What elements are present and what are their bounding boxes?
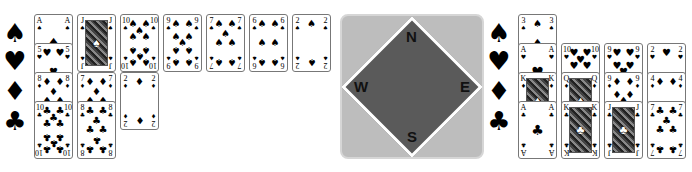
hearts-suit-icon: ♥ xyxy=(0,48,30,74)
card-rank-index: 9♠ xyxy=(193,17,200,31)
spades-suit-icon: ♠ xyxy=(0,20,30,46)
card-8-of-clubs[interactable]: 8♣8♣8♣8♣♣♣♣♣♣♣♣♣ xyxy=(77,101,116,159)
card-rank-index: A♣ xyxy=(548,104,555,118)
spades-suit-icon: ♠ xyxy=(484,20,514,46)
card-rank-index: 2♦ xyxy=(150,75,157,89)
face-card-portrait: ♣ xyxy=(569,107,592,153)
card-rank-index: A♠ xyxy=(64,17,71,31)
card-rank-index: 5♥ xyxy=(64,46,71,60)
card-7-of-spades[interactable]: 7♠7♠7♠7♠♠♠♠♠♠♠♠ xyxy=(206,14,245,72)
card-rank-index: 9♠ xyxy=(193,55,200,69)
card-rank-index: 8♦ xyxy=(64,75,71,89)
card-rank-index: 7♦ xyxy=(107,75,114,89)
card-rank-index: 8♣ xyxy=(107,104,114,118)
card-rank-index: 10♠ xyxy=(150,55,157,69)
card-rank-index: J♣ xyxy=(634,142,641,156)
clubs-pips-icon: ♣♣♣♣♣♣♣ xyxy=(655,105,678,155)
clubs-pips-icon: ♣♣♣♣♣♣♣♣ xyxy=(85,105,108,155)
card-rank-index: 10♣ xyxy=(64,104,71,118)
spades-pips-icon: ♠♠♠♠♠♠♠♠♠♠ xyxy=(128,18,151,68)
compass-north: N xyxy=(406,28,417,45)
face-card-portrait: ♠ xyxy=(85,20,108,66)
card-rank-index: K♦ xyxy=(548,75,555,89)
card-rank-index: 7♣ xyxy=(677,142,684,156)
card-a-of-clubs[interactable]: A♣A♣A♣A♣♣ xyxy=(518,101,557,159)
card-rank-index: 10♠ xyxy=(150,17,157,31)
card-6-of-spades[interactable]: 6♠6♠6♠6♠♠♠♠♠♠♠ xyxy=(249,14,288,72)
card-rank-index: 2♦ xyxy=(150,113,157,127)
card-rank-index: 7♣ xyxy=(677,104,684,118)
card-rank-index: 6♠ xyxy=(279,55,286,69)
compass-west: W xyxy=(354,78,368,95)
card-rank-index: 2♠ xyxy=(322,17,329,31)
spades-pips-icon: ♠♠♠♠♠♠ xyxy=(257,18,280,68)
card-rank-index: 9♥ xyxy=(634,46,641,60)
card-rank-index: K♣ xyxy=(591,104,598,118)
face-card-portrait: ♣ xyxy=(612,107,635,153)
spades-pips-icon: ♠♠ xyxy=(300,18,323,68)
diamonds-pips-icon: ♦♦ xyxy=(128,76,151,126)
compass-table: N W E S xyxy=(340,14,484,159)
card-7-of-clubs[interactable]: 7♣7♣7♣7♣♣♣♣♣♣♣♣ xyxy=(647,101,686,159)
card-rank-index: 6♠ xyxy=(279,17,286,31)
card-rank-index: A♣ xyxy=(548,142,555,156)
card-rank-index: J♣ xyxy=(634,104,641,118)
card-rank-index: 9♦ xyxy=(634,75,641,89)
card-rank-index: 2♥ xyxy=(677,46,684,60)
diamonds-suit-icon: ♦ xyxy=(484,78,514,104)
clubs-pips-icon: ♣♣♣♣♣♣♣♣♣♣ xyxy=(42,105,65,155)
diamonds-suit-icon: ♦ xyxy=(0,78,30,104)
hearts-suit-icon: ♥ xyxy=(484,48,514,74)
card-rank-index: 7♠ xyxy=(236,17,243,31)
spades-pips-icon: ♠♠♠♠♠♠♠♠♠ xyxy=(171,18,194,68)
clubs-suit-icon: ♣ xyxy=(0,108,30,134)
card-rank-index: K♣ xyxy=(591,142,598,156)
card-j-of-spades[interactable]: J♠J♠J♠J♠♠ xyxy=(77,14,116,72)
card-rank-index: 2♠ xyxy=(322,55,329,69)
card-rank-index: 7♠ xyxy=(236,55,243,69)
compass-east: E xyxy=(460,78,470,95)
card-rank-index: 10♣ xyxy=(64,142,71,156)
card-10-of-clubs[interactable]: 10♣10♣10♣10♣♣♣♣♣♣♣♣♣♣♣ xyxy=(34,101,73,159)
clubs-pips-icon: ♣ xyxy=(526,105,549,155)
card-rank-index: 3♠ xyxy=(548,17,555,31)
card-rank-index: Q♦ xyxy=(591,75,598,89)
card-2-of-spades[interactable]: 2♠2♠2♠2♠♠♠ xyxy=(292,14,331,72)
card-rank-index: 4♦ xyxy=(677,75,684,89)
card-9-of-spades[interactable]: 9♠9♠9♠9♠♠♠♠♠♠♠♠♠♠ xyxy=(163,14,202,72)
spades-pips-icon: ♠♠♠♠♠♠♠ xyxy=(214,18,237,68)
card-rank-index: 8♣ xyxy=(107,142,114,156)
card-rank-index: J♠ xyxy=(107,17,114,31)
card-10-of-spades[interactable]: 10♠10♠10♠10♠♠♠♠♠♠♠♠♠♠♠ xyxy=(120,14,159,72)
card-2-of-diamonds[interactable]: 2♦2♦2♦2♦♦♦ xyxy=(120,72,159,130)
card-rank-index: A♥ xyxy=(548,46,555,60)
compass-south: S xyxy=(407,128,417,145)
card-rank-index: J♠ xyxy=(107,55,114,69)
clubs-suit-icon: ♣ xyxy=(484,108,514,134)
card-rank-index: 10♥ xyxy=(591,46,598,60)
card-j-of-clubs[interactable]: J♣J♣J♣J♣♣ xyxy=(604,101,643,159)
card-k-of-clubs[interactable]: K♣K♣K♣K♣♣ xyxy=(561,101,600,159)
